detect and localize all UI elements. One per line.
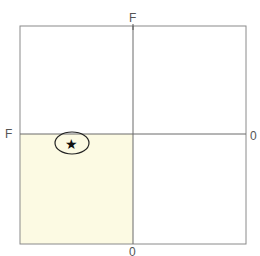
label-bottom: 0 bbox=[129, 246, 136, 256]
quadrant-diagram bbox=[0, 0, 260, 256]
label-left: F bbox=[5, 128, 12, 140]
label-right: 0 bbox=[250, 130, 257, 142]
star-icon: ★ bbox=[65, 137, 78, 151]
label-top: F bbox=[129, 12, 136, 24]
